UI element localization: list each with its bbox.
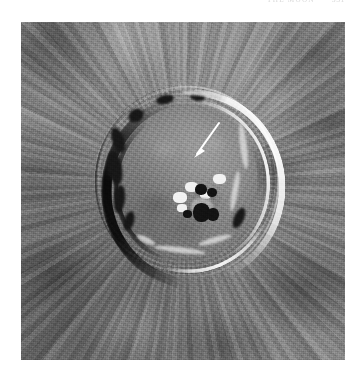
running-head: THE MOON xyxy=(267,0,315,4)
plate-vignette xyxy=(21,22,345,360)
page-number: 331 xyxy=(332,0,345,4)
lunar-crater-photograph xyxy=(21,22,345,360)
page-header: THE MOON 331 xyxy=(0,0,364,14)
